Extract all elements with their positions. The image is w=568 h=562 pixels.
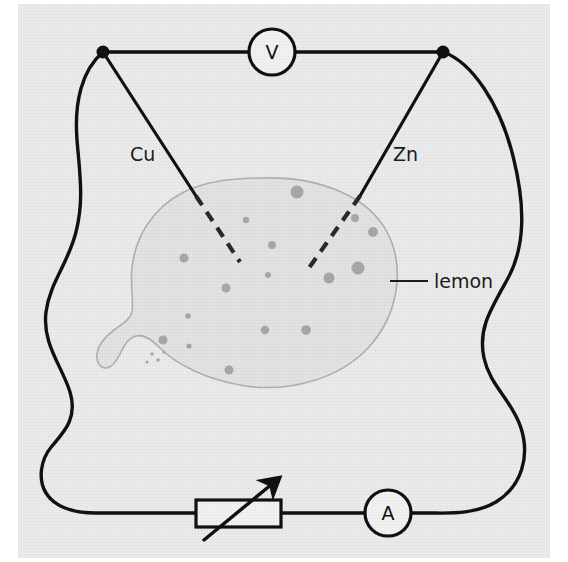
lemon-spot [261,326,269,334]
voltmeter[interactable]: V [249,29,295,75]
lemon-spot [162,350,165,353]
label-lemon: lemon [434,270,493,292]
lemon-spot [156,358,160,362]
ammeter[interactable]: A [365,490,411,536]
lemon-spot [145,360,148,363]
left-terminal-node-dot [97,46,110,59]
lemon-spot [265,272,271,278]
circuit-diagram-svg: V A Cu Zn lemon [0,0,568,562]
label-cu: Cu [130,143,155,165]
lemon-spot [243,217,249,223]
lemon-spot [351,214,359,222]
lemon-spot [352,262,365,275]
label-zn: Zn [393,143,418,165]
lemon-spot [186,343,191,348]
lemon-spot [368,227,378,237]
lemon-spot [185,313,191,319]
lemon-spot [225,366,234,375]
lemon-spot [291,186,304,199]
lemon-spot [159,336,168,345]
lemon-spot [268,241,276,249]
right-terminal-node-dot [437,46,450,59]
lemon-spot [324,273,335,284]
lemon-spot [180,254,189,263]
lemon-spot [150,352,154,356]
ammeter-label: A [382,502,395,524]
lemon-spot [222,284,231,293]
figure-root: V A Cu Zn lemon [0,0,568,562]
voltmeter-label: V [266,41,279,63]
lemon-spot [301,325,311,335]
